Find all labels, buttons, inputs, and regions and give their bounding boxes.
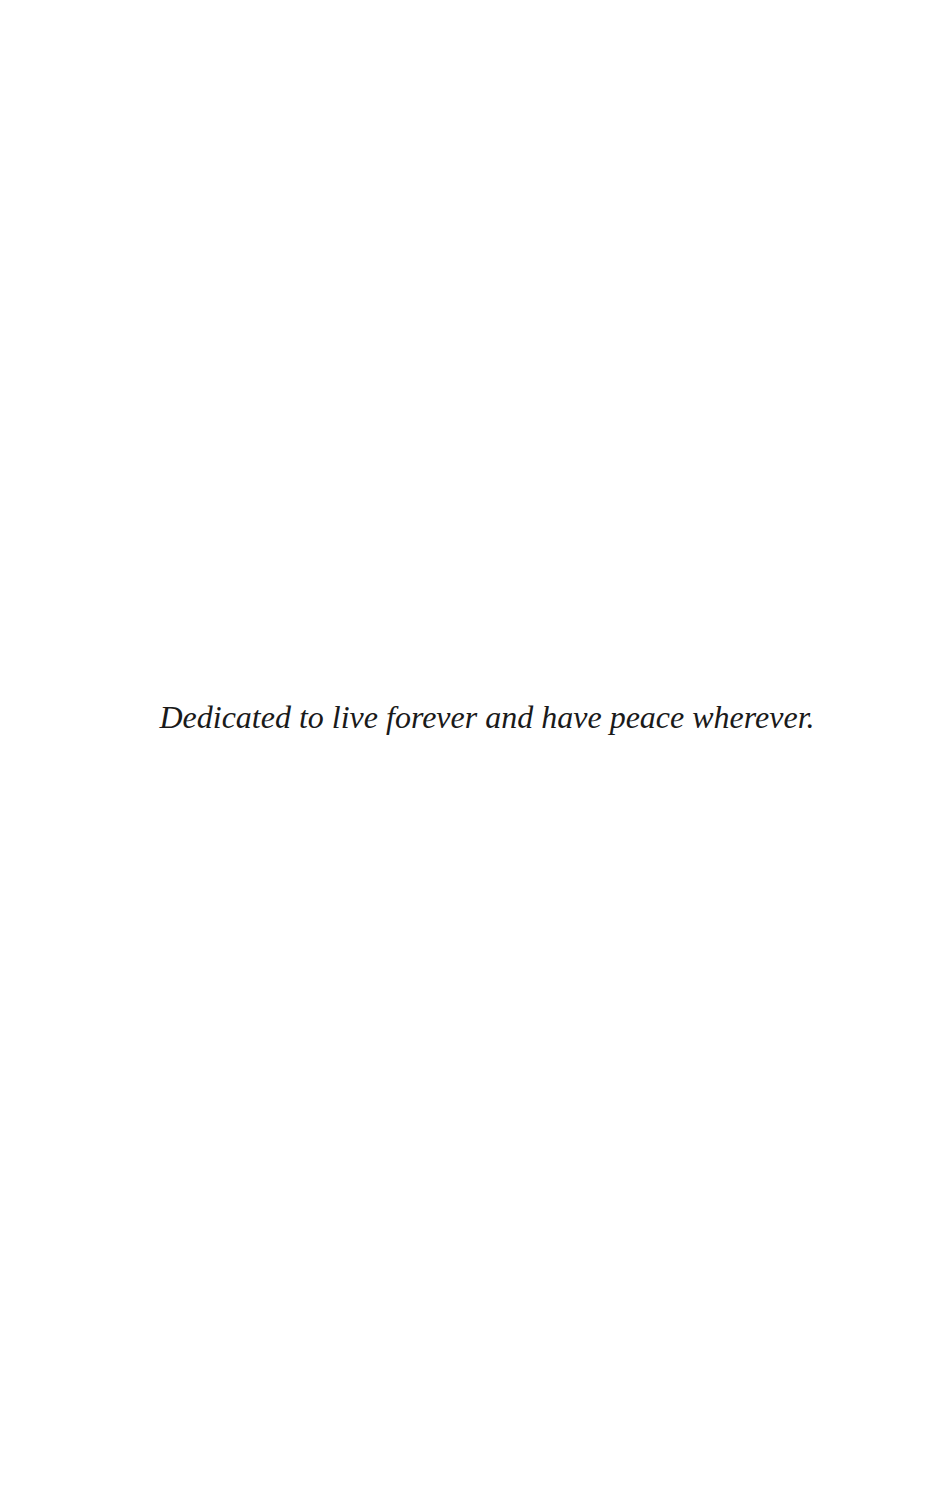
dedication-page: Dedicated to live forever and have peace… <box>0 0 952 1492</box>
dedication-text: Dedicated to live forever and have peace… <box>0 695 952 739</box>
